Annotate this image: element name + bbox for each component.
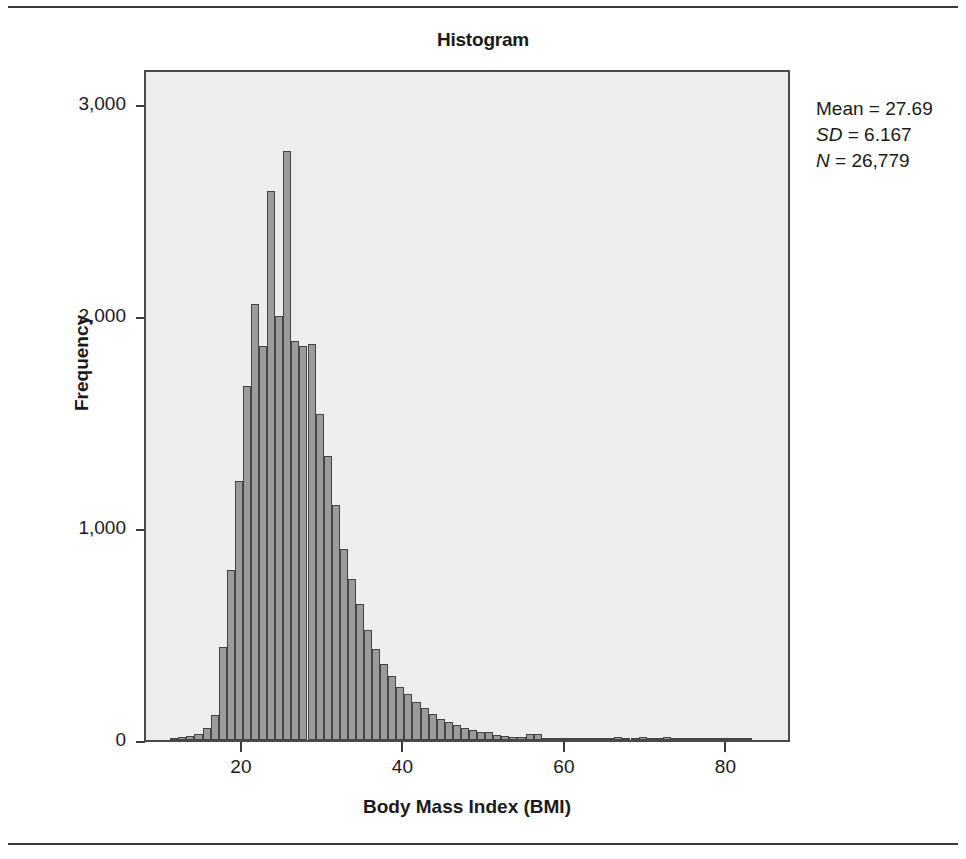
histogram-bar <box>509 737 517 740</box>
histogram-bar <box>251 304 259 740</box>
histogram-bar <box>364 630 372 740</box>
x-tick-mark <box>401 742 403 752</box>
histogram-bar <box>348 579 356 740</box>
histogram-bar <box>429 714 437 740</box>
y-axis-label: Frequency <box>71 253 93 473</box>
histogram-bar <box>299 346 307 740</box>
x-tick-mark <box>563 742 565 752</box>
x-axis-label: Body Mass Index (BMI) <box>144 796 790 818</box>
histogram-bar <box>574 738 582 740</box>
histogram-bar <box>477 732 485 740</box>
histogram-bar <box>453 725 461 740</box>
histogram-bar <box>186 736 194 740</box>
plot-area <box>144 70 790 742</box>
histogram-bar <box>493 735 501 740</box>
histogram-bar <box>534 734 542 740</box>
histogram-bar <box>631 738 639 740</box>
histogram-bar <box>308 344 316 740</box>
histogram-bar <box>614 737 622 740</box>
histogram-bar <box>526 734 534 740</box>
bars-container <box>146 72 788 740</box>
histogram-bar <box>283 151 291 740</box>
histogram-bar <box>647 738 655 740</box>
histogram-bar <box>275 316 283 740</box>
top-divider-rule <box>8 6 958 8</box>
histogram-bar <box>469 730 477 740</box>
stat-sd-value: 6.167 <box>864 124 912 145</box>
histogram-bar <box>219 647 227 740</box>
histogram-bar <box>259 346 267 740</box>
histogram-bar <box>243 386 251 740</box>
stat-sd: SD = 6.167 <box>816 122 933 148</box>
histogram-bar <box>227 570 235 740</box>
histogram-bar <box>372 649 380 740</box>
stat-n-equals: = <box>835 150 846 171</box>
histogram-bar <box>380 664 388 740</box>
histogram-bar <box>388 676 396 740</box>
histogram-bar <box>178 737 186 740</box>
histogram-bar <box>663 737 671 740</box>
histogram-bar <box>396 687 404 740</box>
histogram-bar <box>711 738 719 740</box>
histogram-bar <box>421 708 429 740</box>
histogram-bar <box>437 719 445 740</box>
histogram-bar <box>695 738 703 740</box>
histogram-bar <box>639 737 647 740</box>
y-tick-label: 0 <box>0 729 126 751</box>
histogram-bar <box>412 702 420 740</box>
histogram-bar <box>679 738 687 740</box>
histogram-bar <box>550 738 558 740</box>
histogram-bar <box>461 728 469 740</box>
y-tick-label: 1,000 <box>0 517 126 539</box>
histogram-bar <box>235 481 243 740</box>
histogram-bar <box>332 505 340 740</box>
histogram-bar <box>598 738 606 740</box>
x-tick-label: 80 <box>685 756 765 778</box>
bottom-divider-rule <box>8 843 958 845</box>
histogram-bar <box>566 738 574 740</box>
histogram-bar <box>356 604 364 740</box>
stat-mean-value: 27.69 <box>885 98 933 119</box>
histogram-bar <box>291 341 299 740</box>
stat-mean: Mean = 27.69 <box>816 96 933 122</box>
histogram-bar <box>655 738 663 740</box>
stat-mean-equals: = <box>869 98 880 119</box>
histogram-bar <box>606 738 614 740</box>
stat-sd-equals: = <box>848 124 859 145</box>
histogram-bar <box>671 738 679 740</box>
stat-n-label: N <box>816 150 830 171</box>
histogram-bar <box>316 414 324 740</box>
histogram-bar <box>687 738 695 740</box>
histogram-bar <box>211 715 219 740</box>
histogram-bar <box>267 191 275 740</box>
histogram-bar <box>170 738 178 740</box>
histogram-bar <box>542 738 550 740</box>
histogram-bar <box>582 738 590 740</box>
stat-n-value: 26,779 <box>851 150 909 171</box>
x-tick-label: 60 <box>524 756 604 778</box>
histogram-bar <box>719 738 727 740</box>
x-tick-mark <box>240 742 242 752</box>
histogram-bar <box>445 722 453 740</box>
stat-mean-label: Mean <box>816 98 864 119</box>
histogram-bar <box>404 694 412 740</box>
page-title: Histogram <box>0 29 966 51</box>
y-tick-label: 2,000 <box>0 305 126 327</box>
histogram-bar <box>735 738 743 740</box>
histogram-bar <box>203 728 211 740</box>
histogram-bar <box>324 456 332 740</box>
histogram-bar <box>727 738 735 740</box>
histogram-bar <box>590 738 598 740</box>
histogram-bar <box>558 738 566 740</box>
histogram-bar <box>517 737 525 740</box>
stat-sd-label: SD <box>816 124 842 145</box>
histogram-bar <box>703 738 711 740</box>
histogram-bar <box>622 738 630 740</box>
stat-n: N = 26,779 <box>816 148 933 174</box>
y-tick-label: 3,000 <box>0 93 126 115</box>
histogram-figure: Histogram Frequency 01,0002,0003,000 204… <box>0 0 966 859</box>
histogram-bar <box>194 734 202 740</box>
histogram-bar <box>501 736 509 740</box>
statistics-annotation: Mean = 27.69 SD = 6.167 N = 26,779 <box>816 96 933 174</box>
histogram-bar <box>485 732 493 740</box>
